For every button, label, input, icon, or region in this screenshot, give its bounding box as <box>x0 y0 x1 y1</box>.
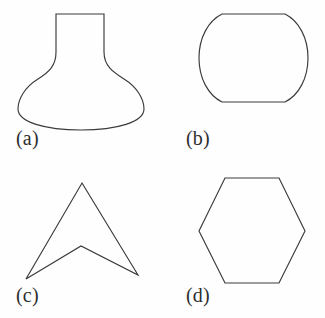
panel-label-b: (b) <box>186 128 210 148</box>
panel-label-c: (c) <box>16 285 39 305</box>
shape-path-b <box>199 14 308 102</box>
shape-path-a <box>18 14 144 130</box>
shape-panel-a: (a) <box>0 0 162 159</box>
shape-panel-b: (b) <box>163 0 325 159</box>
panel-label-a: (a) <box>16 128 39 148</box>
figure-container: (a) (b) (c) (d) <box>0 0 325 318</box>
shape-path-d <box>199 178 305 283</box>
shape-panel-d: (d) <box>163 159 325 318</box>
shape-panel-c: (c) <box>0 159 162 318</box>
shape-path-c <box>26 183 138 279</box>
panel-label-d: (d) <box>186 285 210 305</box>
